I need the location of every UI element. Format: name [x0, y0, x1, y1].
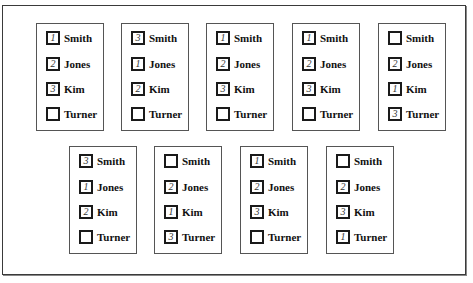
rank-checkbox[interactable] [388, 31, 402, 45]
rank-checkbox[interactable]: 1 [79, 180, 93, 194]
ballot-row: 1Kim [164, 204, 203, 220]
rank-checkbox[interactable]: 2 [79, 205, 93, 219]
ballot-row: 2Jones [388, 56, 432, 72]
ballot: 1Smith2Jones3KimTurner [240, 146, 308, 254]
candidate-name: Turner [320, 108, 353, 120]
ballot: 1Smith2Jones3KimTurner [206, 23, 274, 131]
candidate-name: Kim [64, 83, 85, 95]
candidate-name: Kim [97, 206, 118, 218]
rank-checkbox[interactable] [216, 107, 230, 121]
rank-checkbox[interactable]: 1 [164, 205, 178, 219]
candidate-name: Kim [234, 83, 255, 95]
ballot-row: 2Kim [131, 81, 170, 97]
ballot-row: 3Smith [131, 30, 177, 46]
ballot: 3Smith1Jones2KimTurner [121, 23, 189, 131]
candidate-name: Jones [97, 181, 123, 193]
ballot-row: Smith [336, 153, 382, 169]
rank-checkbox[interactable] [336, 154, 350, 168]
rank-checkbox[interactable]: 2 [388, 57, 402, 71]
ballot-row: 3Kim [46, 81, 85, 97]
rank-checkbox[interactable]: 2 [336, 180, 350, 194]
rank-checkbox[interactable]: 2 [216, 57, 230, 71]
rank-checkbox[interactable] [46, 107, 60, 121]
ballot-row: 3Kim [336, 204, 375, 220]
rank-checkbox[interactable]: 1 [131, 57, 145, 71]
candidate-name: Kim [406, 83, 427, 95]
candidate-name: Turner [406, 108, 439, 120]
candidate-name: Kim [354, 206, 375, 218]
rank-checkbox[interactable]: 1 [302, 31, 316, 45]
candidate-name: Kim [320, 83, 341, 95]
ballot-row: Smith [388, 30, 434, 46]
rank-checkbox[interactable]: 1 [216, 31, 230, 45]
candidate-name: Jones [406, 58, 432, 70]
ballot-row: 2Jones [250, 179, 294, 195]
rank-checkbox[interactable] [131, 107, 145, 121]
rank-checkbox[interactable]: 2 [46, 57, 60, 71]
candidate-name: Turner [268, 231, 301, 243]
rank-checkbox[interactable]: 3 [216, 82, 230, 96]
rank-checkbox[interactable]: 3 [336, 205, 350, 219]
candidate-name: Jones [64, 58, 90, 70]
rank-checkbox[interactable]: 1 [250, 154, 264, 168]
candidate-name: Jones [149, 58, 175, 70]
ballot-row: 1Jones [79, 179, 123, 195]
ballot: 3Smith1Jones2KimTurner [69, 146, 137, 254]
ballot-row: Turner [216, 106, 267, 122]
ballot-row: 1Smith [216, 30, 262, 46]
rank-checkbox[interactable] [302, 107, 316, 121]
ballot: Smith2Jones1Kim3Turner [378, 23, 446, 131]
ballot-row: 3Turner [164, 229, 215, 245]
ballot: Smith2Jones3Kim1Turner [326, 146, 394, 254]
candidate-name: Smith [234, 32, 262, 44]
rank-checkbox[interactable]: 1 [46, 31, 60, 45]
rank-checkbox[interactable]: 3 [250, 205, 264, 219]
ballot: 1Smith2Jones3KimTurner [292, 23, 360, 131]
rank-checkbox[interactable]: 2 [250, 180, 264, 194]
ballot-row: 1Turner [336, 229, 387, 245]
rank-checkbox[interactable]: 3 [388, 107, 402, 121]
ballot-row: Turner [131, 106, 182, 122]
rank-checkbox[interactable]: 2 [131, 82, 145, 96]
rank-checkbox[interactable]: 1 [336, 230, 350, 244]
ballot-row: 2Kim [79, 204, 118, 220]
ballot-row: 2Jones [46, 56, 90, 72]
ballot: 1Smith2Jones3KimTurner [36, 23, 104, 131]
candidate-name: Jones [354, 181, 380, 193]
candidate-name: Kim [268, 206, 289, 218]
candidate-name: Turner [64, 108, 97, 120]
ballot-row: 1Kim [388, 81, 427, 97]
ballot-row: 2Jones [302, 56, 346, 72]
candidate-name: Smith [149, 32, 177, 44]
rank-checkbox[interactable]: 3 [302, 82, 316, 96]
rank-checkbox[interactable]: 3 [131, 31, 145, 45]
rank-checkbox[interactable] [164, 154, 178, 168]
rank-checkbox[interactable]: 1 [388, 82, 402, 96]
candidate-name: Smith [354, 155, 382, 167]
candidate-name: Jones [268, 181, 294, 193]
ballot-row: 1Smith [46, 30, 92, 46]
ballot-row: 1Smith [250, 153, 296, 169]
rank-checkbox[interactable] [79, 230, 93, 244]
rank-checkbox[interactable]: 3 [46, 82, 60, 96]
rank-checkbox[interactable]: 2 [164, 180, 178, 194]
rank-checkbox[interactable]: 2 [302, 57, 316, 71]
candidate-name: Jones [320, 58, 346, 70]
rank-checkbox[interactable]: 3 [164, 230, 178, 244]
candidate-name: Turner [234, 108, 267, 120]
candidate-name: Turner [182, 231, 215, 243]
ballot-row: Smith [164, 153, 210, 169]
ballot-row: Turner [46, 106, 97, 122]
ballot: Smith2Jones1Kim3Turner [154, 146, 222, 254]
candidate-name: Jones [182, 181, 208, 193]
ballot-row: 2Jones [336, 179, 380, 195]
rank-checkbox[interactable]: 3 [79, 154, 93, 168]
candidate-name: Smith [320, 32, 348, 44]
candidate-name: Smith [268, 155, 296, 167]
ballot-row: Turner [79, 229, 130, 245]
candidate-name: Jones [234, 58, 260, 70]
rank-checkbox[interactable] [250, 230, 264, 244]
ballot-row: 1Smith [302, 30, 348, 46]
ballot-row: 1Jones [131, 56, 175, 72]
candidate-name: Smith [64, 32, 92, 44]
